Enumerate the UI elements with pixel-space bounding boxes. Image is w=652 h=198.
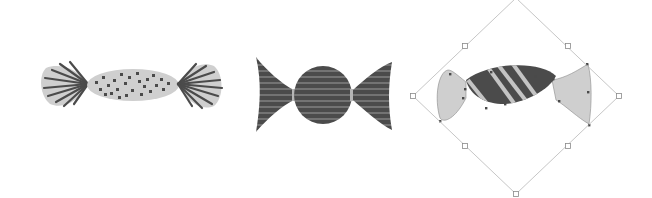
handle-bottom-left[interactable] [463,144,468,149]
right-fin [353,62,392,130]
handle-left[interactable] [411,94,416,99]
candy-striped-horizontal[interactable] [256,57,392,132]
handle-bottom-right[interactable] [566,144,571,149]
handle-right[interactable] [617,94,622,99]
left-fin [437,70,466,120]
candy-striped-diagonal-selected[interactable] [437,60,591,126]
handle-top-right[interactable] [566,44,571,49]
handle-top-left[interactable] [463,44,468,49]
candy-ball [294,66,352,124]
handle-bottom[interactable] [514,192,519,197]
candy-body [87,69,179,101]
drawing-canvas[interactable] [0,0,652,198]
left-fin [256,57,294,132]
candy-dotted[interactable] [41,62,222,108]
right-fin [552,64,591,124]
